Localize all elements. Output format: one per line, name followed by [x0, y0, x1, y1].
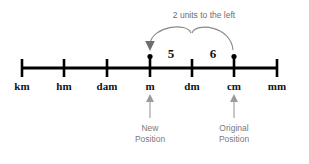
unit-label-mm: mm	[268, 80, 286, 92]
value-label-6: 6	[210, 46, 217, 61]
hop-arc-left	[150, 27, 191, 44]
unit-label-cm: cm	[227, 80, 241, 92]
unit-label-hm: hm	[56, 80, 71, 92]
up-arrow-icon-original-position	[230, 94, 238, 102]
new-position-dot	[147, 54, 152, 59]
value-label-5: 5	[168, 46, 175, 61]
new-position-caption-line1: New	[141, 123, 159, 133]
metric-conversion-number-line-figure: 2 units to the left 5 6 km hm dam m dm c…	[0, 0, 309, 164]
original-position-caption-line1: Original	[219, 123, 248, 133]
unit-label-m: m	[145, 80, 154, 92]
unit-label-km: km	[14, 80, 29, 92]
unit-label-dam: dam	[97, 80, 118, 92]
unit-label-dm: dm	[184, 80, 199, 92]
hop-arrowhead-icon	[145, 41, 155, 51]
new-position-caption-line2: Position	[135, 134, 166, 144]
annotation-label: 2 units to the left	[173, 10, 236, 20]
original-position-dot	[231, 54, 236, 59]
up-arrow-icon-new-position	[146, 94, 154, 102]
original-position-caption-line2: Position	[219, 134, 250, 144]
